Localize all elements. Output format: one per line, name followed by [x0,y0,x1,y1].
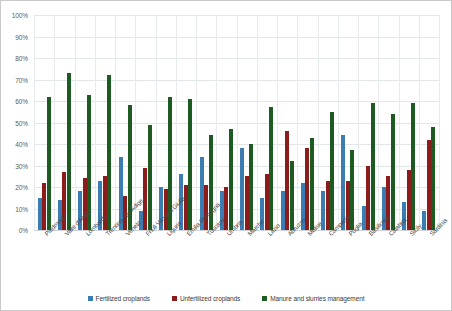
bar-group [378,15,398,230]
bar [305,148,309,230]
bar [411,103,415,230]
bar-group [277,15,297,230]
bar-group [257,15,277,230]
bar [148,125,152,230]
bar [310,138,314,230]
bar [240,148,244,230]
bar [366,166,370,231]
bar [346,181,350,230]
legend-item: Fertilized croplands [88,295,150,302]
y-axis-tick-label: 20% [15,184,28,191]
legend-item: Manure and slurries management [262,295,364,302]
plot-area [34,15,439,230]
bar [371,103,375,230]
bar [47,97,51,230]
legend-swatch-icon [172,296,177,301]
legend-item-label: Fertilized croplands [96,295,150,302]
bar [431,127,435,230]
bar [188,99,192,230]
bar-group [54,15,74,230]
y-axis-tick-label: 90% [15,33,28,40]
bars-layer [34,15,439,230]
bar-group [399,15,419,230]
bar-group [419,15,439,230]
bar [229,129,233,230]
bar [107,75,111,230]
bar-group [156,15,176,230]
legend-swatch-icon [262,296,267,301]
y-axis-tick-label: 60% [15,98,28,105]
bar-group [216,15,236,230]
bar [427,140,431,230]
bar-group [34,15,54,230]
x-axis: PiedmontValle d'AostaLombardyTrentino Al… [34,232,439,288]
bar-group [318,15,338,230]
legend-item: Unfertilized croplands [172,295,240,302]
y-axis-tick-label: 70% [15,76,28,83]
bar [281,191,285,230]
bar [38,198,42,230]
chart-container: 0%10%20%30%40%50%60%70%80%90%100% Piedmo… [0,0,452,311]
bar [143,168,147,230]
bar [245,176,249,230]
y-axis-tick-label: 10% [15,205,28,212]
bar [326,181,330,230]
y-axis-tick-label: 30% [15,162,28,169]
category-separator [439,15,440,230]
y-axis-tick-label: 0% [19,227,28,234]
bar [269,107,273,230]
bar [391,114,395,230]
bar-group [95,15,115,230]
bar [67,73,71,230]
y-axis: 0%10%20%30%40%50%60%70%80%90%100% [1,15,31,230]
bar [386,176,390,230]
bar [285,131,289,230]
legend-item-label: Unfertilized croplands [180,295,240,302]
chart-legend: Fertilized croplandsUnfertilized croplan… [1,295,451,302]
bar-group [338,15,358,230]
legend-item-label: Manure and slurries management [270,295,364,302]
bar-group [358,15,378,230]
bar [184,185,188,230]
y-axis-tick-label: 50% [15,119,28,126]
bar-group [75,15,95,230]
bar [224,187,228,230]
y-axis-tick-label: 80% [15,55,28,62]
bar-group [115,15,135,230]
y-axis-tick-label: 100% [12,12,28,19]
bar [204,185,208,230]
bar-group [237,15,257,230]
bar-group [196,15,216,230]
bar [330,112,334,230]
bar [350,150,354,230]
bar [42,183,46,230]
bar [422,211,426,230]
bar-group [297,15,317,230]
bar [290,161,294,230]
bar [249,144,253,230]
bar [265,174,269,230]
y-axis-tick-label: 40% [15,141,28,148]
bar [83,178,87,230]
legend-swatch-icon [88,296,93,301]
